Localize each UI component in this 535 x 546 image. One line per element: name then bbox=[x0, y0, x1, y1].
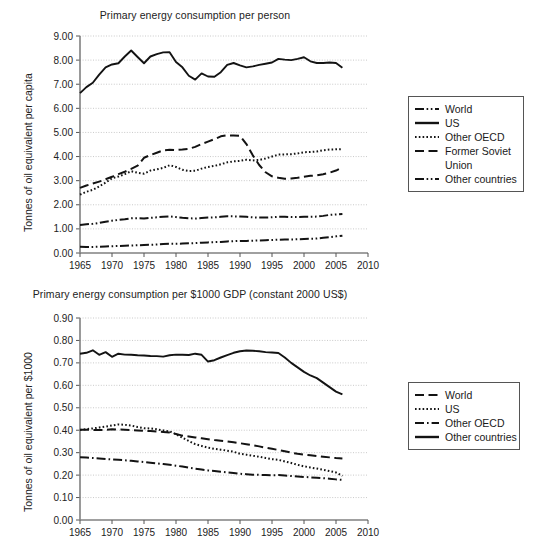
svg-text:0.70: 0.70 bbox=[54, 357, 74, 368]
svg-text:1970: 1970 bbox=[101, 260, 124, 271]
legend-item-other-oecd[interactable]: Other OECD bbox=[414, 416, 513, 430]
legend-label: Other OECD bbox=[445, 417, 505, 429]
svg-text:1965: 1965 bbox=[69, 527, 92, 538]
legend-top: WorldUSOther OECDFormer SovietUnionOther… bbox=[408, 96, 524, 192]
legend-item-world[interactable]: World bbox=[414, 102, 517, 116]
legend-item-former-soviet[interactable]: Former Soviet bbox=[414, 144, 517, 158]
svg-text:0.00: 0.00 bbox=[54, 515, 74, 526]
legend-line-sample-solid-icon bbox=[414, 431, 440, 443]
plot-area-bottom: 0.000.100.200.300.400.500.600.700.800.90… bbox=[0, 280, 400, 546]
svg-text:0.90: 0.90 bbox=[54, 313, 74, 324]
legend-item-other-countries[interactable]: Other countries bbox=[414, 430, 513, 444]
legend-item-other-oecd[interactable]: Other OECD bbox=[414, 130, 517, 144]
legend-label: Former Soviet bbox=[445, 145, 511, 157]
series-line-us bbox=[80, 50, 342, 93]
svg-text:2010: 2010 bbox=[357, 260, 380, 271]
svg-text:9.00: 9.00 bbox=[54, 31, 74, 42]
legend-label: World bbox=[445, 103, 472, 115]
legend-line-sample-dashed-icon bbox=[414, 145, 440, 157]
series-line-other-countries bbox=[80, 236, 342, 247]
svg-text:6.00: 6.00 bbox=[54, 103, 74, 114]
legend-item-other-countries[interactable]: Other countries bbox=[414, 172, 517, 186]
svg-text:1.00: 1.00 bbox=[54, 223, 74, 234]
svg-text:1975: 1975 bbox=[133, 260, 156, 271]
legend-line-sample-dotted-icon bbox=[414, 403, 440, 415]
legend-item-us[interactable]: US bbox=[414, 116, 517, 130]
svg-text:0.00: 0.00 bbox=[54, 248, 74, 259]
legend-label: US bbox=[445, 403, 460, 415]
svg-text:1965: 1965 bbox=[69, 260, 92, 271]
legend-line-sample-solid-icon bbox=[414, 117, 440, 129]
plot-area-top: 0.001.002.003.004.005.006.007.008.009.00… bbox=[0, 0, 400, 280]
legend-label: Other OECD bbox=[445, 131, 505, 143]
legend-line-sample-dash-dot-dot-icon bbox=[414, 103, 440, 115]
svg-text:8.00: 8.00 bbox=[54, 55, 74, 66]
series-line-other-oecd bbox=[80, 457, 342, 480]
svg-text:1980: 1980 bbox=[165, 260, 188, 271]
svg-text:0.60: 0.60 bbox=[54, 380, 74, 391]
legend-label: Other countries bbox=[445, 173, 517, 185]
svg-text:1975: 1975 bbox=[133, 527, 156, 538]
svg-text:2010: 2010 bbox=[357, 527, 380, 538]
svg-text:4.00: 4.00 bbox=[54, 151, 74, 162]
legend-item-world[interactable]: World bbox=[414, 388, 513, 402]
svg-text:0.10: 0.10 bbox=[54, 492, 74, 503]
svg-text:2000: 2000 bbox=[293, 527, 316, 538]
svg-text:5.00: 5.00 bbox=[54, 127, 74, 138]
svg-text:1995: 1995 bbox=[261, 260, 284, 271]
legend-line-sample-dash-dot-dot-icon bbox=[414, 173, 440, 185]
series-line-other-countries bbox=[80, 350, 342, 394]
svg-text:2005: 2005 bbox=[325, 260, 348, 271]
chart-primary-energy-per-gdp: Primary energy consumption per $1000 GDP… bbox=[0, 280, 535, 546]
svg-text:0.40: 0.40 bbox=[54, 425, 74, 436]
svg-text:0.20: 0.20 bbox=[54, 470, 74, 481]
legend-bottom: WorldUSOther OECDOther countries bbox=[408, 382, 520, 450]
legend-line-sample-dotted-icon bbox=[414, 131, 440, 143]
series-line-former-soviet-union bbox=[80, 135, 342, 188]
svg-text:3.00: 3.00 bbox=[54, 175, 74, 186]
legend-item-us[interactable]: US bbox=[414, 402, 513, 416]
legend-label: World bbox=[445, 389, 472, 401]
svg-text:0.30: 0.30 bbox=[54, 447, 74, 458]
svg-text:1995: 1995 bbox=[261, 527, 284, 538]
svg-text:1985: 1985 bbox=[197, 260, 220, 271]
legend-line-sample-dash-dot-icon bbox=[414, 417, 440, 429]
series-line-world bbox=[80, 214, 342, 225]
series-line-world bbox=[80, 429, 342, 458]
legend-label: US bbox=[445, 117, 460, 129]
svg-text:1980: 1980 bbox=[165, 527, 188, 538]
svg-text:7.00: 7.00 bbox=[54, 79, 74, 90]
legend-label-continuation: Union bbox=[414, 158, 517, 172]
legend-label: Other countries bbox=[445, 431, 517, 443]
svg-text:0.50: 0.50 bbox=[54, 402, 74, 413]
svg-text:1990: 1990 bbox=[229, 527, 252, 538]
svg-text:2005: 2005 bbox=[325, 527, 348, 538]
svg-text:1985: 1985 bbox=[197, 527, 220, 538]
series-line-us bbox=[80, 424, 342, 475]
svg-text:2000: 2000 bbox=[293, 260, 316, 271]
chart-primary-energy-per-person: Primary energy consumption per person To… bbox=[0, 0, 535, 280]
legend-line-sample-dashed-icon bbox=[414, 389, 440, 401]
series-line-other-oecd bbox=[80, 149, 342, 195]
svg-text:1970: 1970 bbox=[101, 527, 124, 538]
svg-text:2.00: 2.00 bbox=[54, 199, 74, 210]
svg-text:1990: 1990 bbox=[229, 260, 252, 271]
svg-text:0.80: 0.80 bbox=[54, 335, 74, 346]
